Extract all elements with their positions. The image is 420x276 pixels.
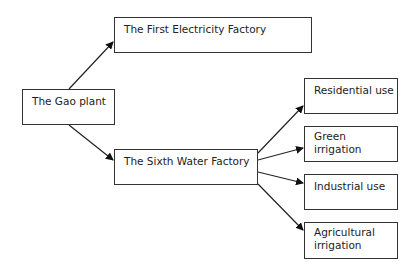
node-agricultural-irrigation: Agricultural irrigation	[304, 222, 398, 259]
node-green-irrigation: Green irrigation	[304, 126, 398, 162]
node-label: The First Electricity Factory	[124, 23, 266, 35]
node-label-line2: irrigation	[314, 239, 397, 252]
node-gao-plant: The Gao plant	[22, 89, 115, 125]
node-sixth-water-factory: The Sixth Water Factory	[114, 149, 258, 185]
node-label-line1: Green	[314, 130, 397, 143]
node-label: Industrial use	[314, 180, 385, 192]
arrow-gao-to-electricity	[69, 42, 113, 89]
arrow-water-to-agricultural	[258, 184, 303, 230]
node-label-line2: irrigation	[314, 143, 397, 156]
node-first-electricity-factory: The First Electricity Factory	[114, 17, 312, 53]
arrow-water-to-green	[258, 148, 303, 160]
arrow-water-to-industrial	[258, 172, 303, 183]
arrow-gao-to-water	[69, 125, 113, 160]
node-residential-use: Residential use	[304, 78, 398, 114]
arrow-water-to-residential	[258, 106, 303, 153]
node-label: The Gao plant	[32, 95, 106, 107]
node-label: Residential use	[314, 84, 394, 96]
node-label: The Sixth Water Factory	[124, 155, 250, 167]
node-label-line1: Agricultural	[314, 226, 397, 239]
node-industrial-use: Industrial use	[304, 174, 398, 210]
